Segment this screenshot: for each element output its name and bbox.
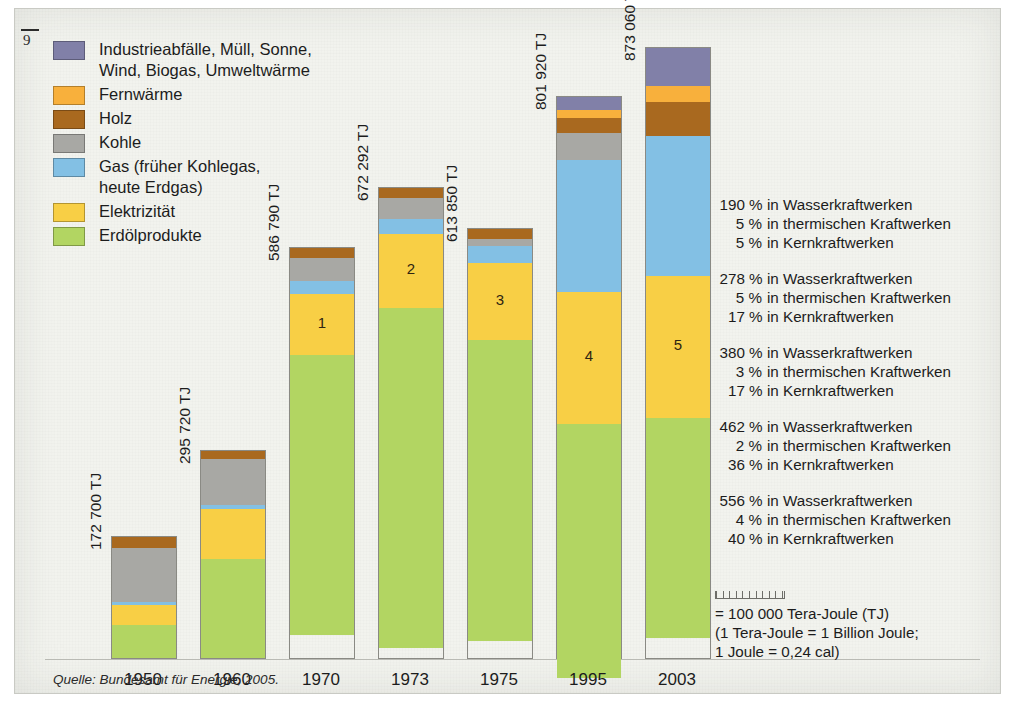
footnote-text: in Wasserkraftwerken — [767, 417, 1005, 436]
footnote-percent: 78 % — [728, 269, 762, 288]
footnote-text: in thermischen Kraftwerken — [767, 436, 1005, 455]
bar-segment-1960-erdoel — [201, 559, 265, 658]
bar-segment-1950-kohle — [112, 548, 176, 603]
bar-segment-2003-fernwaerme — [646, 86, 710, 101]
bar-segment-1950-erdoel — [112, 625, 176, 658]
footnote-line: 556 %in Wasserkraftwerken — [715, 491, 1005, 510]
bar-segment-1975-erdoel — [468, 340, 532, 641]
bar-total-label-1973: 672 292 TJ — [354, 124, 372, 201]
footnote-index — [715, 529, 728, 548]
bar-total-label-1960: 295 720 TJ — [176, 387, 194, 464]
bar-total-label-1995: 801 920 TJ — [532, 33, 550, 110]
bar-segment-1960-elektrizitaet — [201, 509, 265, 559]
footnote-text: in Kernkraftwerken — [767, 529, 1005, 548]
x-axis-tick-2003: 2003 — [632, 670, 722, 690]
bar-segment-1975-holz — [468, 229, 532, 239]
footnote-text: in thermischen Kraftwerken — [767, 288, 1005, 307]
bar-segment-1995-kohle — [557, 133, 621, 160]
footnote-line: 462 %in Wasserkraftwerken — [715, 417, 1005, 436]
footnote-line: 5 %in thermischen Kraftwerken — [715, 214, 1005, 233]
footnote-line: 3 %in thermischen Kraftwerken — [715, 362, 1005, 381]
footnote-group-3: 380 %in Wasserkraftwerken3 %in thermisch… — [715, 343, 1005, 400]
footnote-line: 40 %in Kernkraftwerken — [715, 529, 1005, 548]
bar-segment-1970-holz — [290, 248, 354, 258]
scale-key-line-3: 1 Joule = 0,24 cal) — [715, 642, 1005, 661]
bar-footnote-marker-4: 4 — [557, 292, 621, 364]
bar-1970: 1 — [289, 247, 355, 659]
footnote-line: 278 %in Wasserkraftwerken — [715, 269, 1005, 288]
scale-ruler-icon — [715, 591, 785, 599]
bar-segment-1995-gas — [557, 160, 621, 293]
footnote-percent: 4 % — [728, 510, 762, 529]
bar-total-label-2003: 873 060 TJ — [621, 0, 639, 61]
footnote-line: 17 %in Kernkraftwerken — [715, 307, 1005, 326]
footnote-percent: 80 % — [728, 343, 762, 362]
footnote-index — [715, 510, 728, 529]
bar-segment-1973-kohle — [379, 198, 443, 219]
bar-segment-1950-holz — [112, 537, 176, 547]
x-axis-tick-1973: 1973 — [365, 670, 455, 690]
bar-footnote-marker-1: 1 — [290, 294, 354, 331]
footnote-index — [715, 307, 728, 326]
footnote-text: in Kernkraftwerken — [767, 233, 1005, 252]
footnote-index — [715, 214, 728, 233]
footnote-group-2: 278 %in Wasserkraftwerken5 %in thermisch… — [715, 269, 1005, 326]
footnote-percent: 62 % — [728, 417, 762, 436]
footnote-text: in thermischen Kraftwerken — [767, 510, 1005, 529]
x-axis-tick-1975: 1975 — [454, 670, 544, 690]
footnote-group-5: 556 %in Wasserkraftwerken4 %in thermisch… — [715, 491, 1005, 548]
footnote-percent: 40 % — [728, 529, 762, 548]
footnote-percent: 3 % — [728, 362, 762, 381]
bar-segment-2003-elektrizitaet: 5 — [646, 276, 710, 418]
footnote-text: in thermischen Kraftwerken — [767, 362, 1005, 381]
bar-segment-1995-sonstige — [557, 97, 621, 110]
footnote-percent: 17 % — [728, 381, 762, 400]
footnote-percent: 17 % — [728, 307, 762, 326]
footnote-index — [715, 233, 728, 252]
footnote-line: 2 %in thermischen Kraftwerken — [715, 436, 1005, 455]
footnote-text: in Kernkraftwerken — [767, 455, 1005, 474]
footnote-line: 17 %in Kernkraftwerken — [715, 381, 1005, 400]
bar-footnote-marker-3: 3 — [468, 263, 532, 307]
footnote-index — [715, 288, 728, 307]
footnote-text: in Wasserkraftwerken — [767, 269, 1005, 288]
footnote-line: 5 %in Kernkraftwerken — [715, 233, 1005, 252]
bar-segment-1970-kohle — [290, 258, 354, 281]
footnote-index: 1 — [715, 195, 728, 214]
bar-segment-1960-holz — [201, 451, 265, 459]
footnote-index — [715, 381, 728, 400]
footnote-line: 5 %in thermischen Kraftwerken — [715, 288, 1005, 307]
footnote-percent: 56 % — [728, 491, 762, 510]
footnote-line: 4 %in thermischen Kraftwerken — [715, 510, 1005, 529]
footnote-text: in Kernkraftwerken — [767, 307, 1005, 326]
bar-segment-2003-gas — [646, 136, 710, 276]
bar-segment-1975-kohle — [468, 239, 532, 246]
bar-total-label-1950: 172 700 TJ — [87, 473, 105, 550]
footnote-index: 2 — [715, 269, 728, 288]
bar-1950 — [111, 536, 177, 659]
bar-footnote-marker-5: 5 — [646, 276, 710, 353]
footnote-group-4: 462 %in Wasserkraftwerken2 %in thermisch… — [715, 417, 1005, 474]
bar-segment-2003-sonstige — [646, 48, 710, 86]
footnote-percent: 36 % — [728, 455, 762, 474]
bar-segment-1995-holz — [557, 118, 621, 133]
bar-segment-1995-elektrizitaet: 4 — [557, 292, 621, 423]
bar-segment-1973-erdoel — [379, 308, 443, 648]
footnote-text: in Wasserkraftwerken — [767, 491, 1005, 510]
footnote-percent: 2 % — [728, 436, 762, 455]
footnote-index — [715, 455, 728, 474]
footnote-line: 190 %in Wasserkraftwerken — [715, 195, 1005, 214]
bar-1960 — [200, 450, 266, 659]
footnote-index — [715, 436, 728, 455]
bar-segment-1975-gas — [468, 246, 532, 263]
source-caption: Quelle: Bundesamt für Energie, 2005. — [53, 672, 279, 687]
footnote-percent: 90 % — [728, 195, 762, 214]
scale-key: = 100 000 Tera-Joule (TJ) (1 Tera-Joule … — [715, 591, 1005, 661]
x-axis-tick-1995: 1995 — [543, 670, 633, 690]
bar-segment-1970-elektrizitaet: 1 — [290, 294, 354, 356]
footnote-line: 380 %in Wasserkraftwerken — [715, 343, 1005, 362]
footnote-index: 4 — [715, 417, 728, 436]
footnote-line: 36 %in Kernkraftwerken — [715, 455, 1005, 474]
figure-panel: 9 Industrieabfälle, Müll, Sonne, Wind, B… — [14, 8, 1001, 694]
bar-segment-1970-erdoel — [290, 355, 354, 635]
